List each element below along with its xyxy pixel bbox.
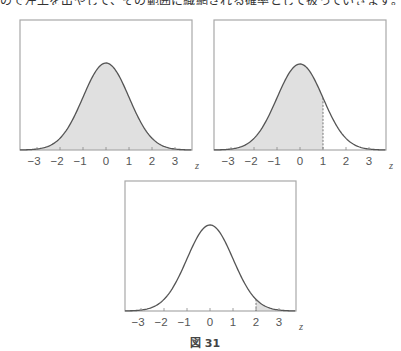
normal-chart-2: −3−2−10123z [214,20,393,171]
x-tick-label: 0 [207,316,213,328]
x-tick-label: 1 [320,155,326,167]
plot-frame [125,181,296,311]
x-tick-label: 2 [149,155,155,167]
normal-curve [125,225,295,311]
x-tick-label: 0 [103,155,109,167]
x-tick-label: −2 [244,155,257,167]
x-tick-label: 3 [172,155,178,167]
x-tick-label: −3 [131,316,144,328]
shaded-area [214,64,323,150]
x-tick-label: −2 [154,316,167,328]
x-axis-label: z [298,321,303,332]
x-tick-label: 1 [230,316,236,328]
x-tick-label: −3 [27,155,40,167]
figure-31-normal-distributions: −3−2−10123z−3−2−10123z−3−2−10123z [0,0,401,351]
x-tick-label: 2 [343,155,349,167]
x-axis-label: z [194,160,199,171]
normal-chart-3: −3−2−10123z [125,181,303,332]
x-tick-label: −2 [50,155,63,167]
x-tick-label: 0 [297,155,303,167]
x-tick-label: −3 [221,155,234,167]
figure-caption: 図 31 [190,334,220,350]
x-tick-label: 3 [366,155,372,167]
x-tick-label: 2 [253,316,259,328]
shaded-area [20,63,192,150]
x-axis-label: z [388,160,393,171]
x-tick-label: −1 [177,316,190,328]
x-tick-label: 3 [276,316,282,328]
x-tick-label: 1 [126,155,132,167]
normal-chart-1: −3−2−10123z [20,20,199,171]
x-tick-label: −1 [73,155,86,167]
x-tick-label: −1 [267,155,280,167]
